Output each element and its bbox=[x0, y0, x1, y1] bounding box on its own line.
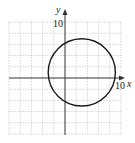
y-axis-label: y bbox=[55, 4, 61, 15]
circle-curve bbox=[48, 39, 115, 106]
y-max-label: 10 bbox=[53, 18, 63, 29]
x-axis-label: x bbox=[126, 78, 132, 89]
x-max-label: 10 bbox=[115, 80, 125, 91]
y-axis-arrow-icon bbox=[63, 9, 68, 15]
axes bbox=[9, 9, 125, 135]
coordinate-plane: y 10 10 x bbox=[0, 0, 135, 143]
